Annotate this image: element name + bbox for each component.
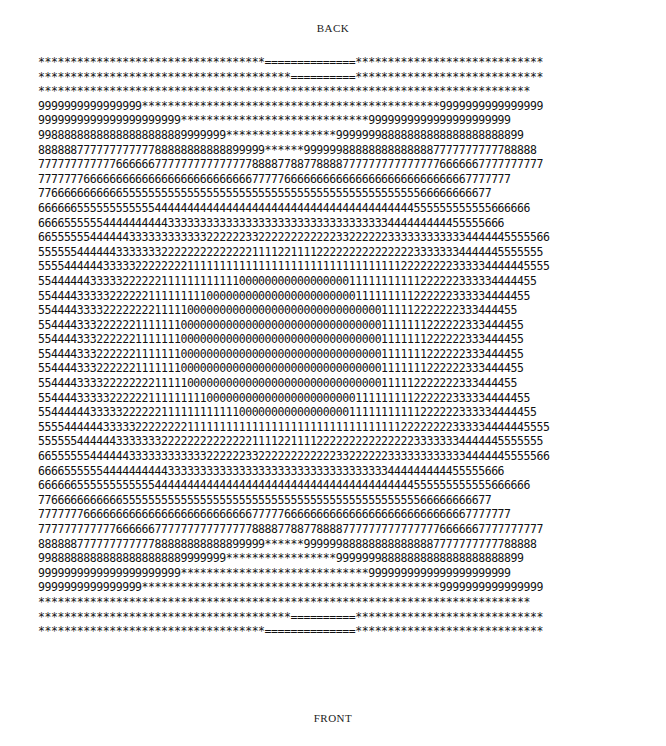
grid-row: 6666555555444444444433333333333333333333… <box>38 464 640 479</box>
grid-row: 9999999999999999************************… <box>38 580 640 595</box>
grid-row: 6666665555555555554444444444444444444444… <box>38 478 640 493</box>
grid-row: ***************************************=… <box>38 70 640 85</box>
grid-row: ****************************************… <box>38 595 640 610</box>
grid-row: ***************************************=… <box>38 610 640 625</box>
grid-row: 5555444444333332222222211111111111111111… <box>38 259 640 274</box>
grid-row: 6655555544444433333333333322222233222222… <box>38 449 640 464</box>
grid-row: 5544443333322222211111111100000000000000… <box>38 391 640 406</box>
grid-row: 7777777666666666666666666666666667777766… <box>38 507 640 522</box>
grid-row: 5544443333322222211111111100000000000000… <box>38 289 640 304</box>
grid-row: 9999999999999999999999******************… <box>38 113 640 128</box>
grid-row: 7777777777776666667777777777777778888778… <box>38 522 640 537</box>
front-label: FRONT <box>0 712 666 724</box>
grid-row: 5544443332222221111111000000000000000000… <box>38 347 640 362</box>
grid-row: 88888877777777777788888888888899999*****… <box>38 143 640 158</box>
grid-row: 5544443332222221111111000000000000000000… <box>38 361 640 376</box>
back-label: BACK <box>0 22 666 34</box>
grid-row: 5555554444443333333222222222222221111221… <box>38 245 640 260</box>
grid-row: 5544443332222221111111000000000000000000… <box>38 318 640 333</box>
grid-row: ****************************************… <box>38 84 640 99</box>
grid-row: 7777777666666666666666666666666667777766… <box>38 172 640 187</box>
grid-row: 6655555544444433333333333322222233222222… <box>38 230 640 245</box>
grid-row: 5544443333222222221111100000000000000000… <box>38 303 640 318</box>
grid-row: 99888888888888888888889999999***********… <box>38 551 640 566</box>
grid-row: 88888877777777777788888888888899999*****… <box>38 537 640 552</box>
grid-row: 5555444444333332222222211111111111111111… <box>38 420 640 435</box>
grid-row: 5544443333222222221111100000000000000000… <box>38 376 640 391</box>
grid-row: 7777777777776666667777777777777778888778… <box>38 157 640 172</box>
grid-row: 7766666666666555555555555555555555555555… <box>38 186 640 201</box>
grid-row: 5555554444443333333222222222222221111221… <box>38 434 640 449</box>
grid-row: ***********************************=====… <box>38 624 640 639</box>
grid-row: 9999999999999999************************… <box>38 99 640 114</box>
grid-row: 9999999999999999999999******************… <box>38 566 640 581</box>
contour-character-grid: ***********************************=====… <box>38 55 640 639</box>
grid-row: 7766666666666555555555555555555555555555… <box>38 493 640 508</box>
grid-row: 5544444433333222222111111111111000000000… <box>38 405 640 420</box>
grid-row: 5544443332222221111111000000000000000000… <box>38 332 640 347</box>
grid-row: 6666555555444444444433333333333333333333… <box>38 216 640 231</box>
grid-row: ***********************************=====… <box>38 55 640 70</box>
grid-row: 99888888888888888888889999999***********… <box>38 128 640 143</box>
grid-row: 5544444433333222222111111111111000000000… <box>38 274 640 289</box>
grid-row: 6666665555555555554444444444444444444444… <box>38 201 640 216</box>
